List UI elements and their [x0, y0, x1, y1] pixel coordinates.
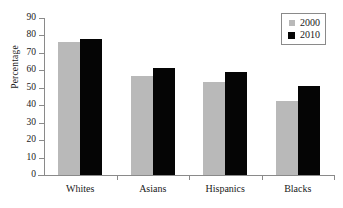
bar-whites-2000 — [58, 42, 80, 175]
y-axis-tick-label: 0 — [31, 168, 36, 181]
bar-blacks-2010 — [298, 86, 320, 175]
y-axis-tick: 90 — [39, 18, 44, 19]
bar-blacks-2000 — [276, 101, 298, 175]
legend-item-2000: 2000 — [286, 17, 320, 29]
y-axis-tick: 20 — [39, 140, 44, 141]
y-axis-tick: 30 — [39, 123, 44, 124]
y-axis-tick: 10 — [39, 158, 44, 159]
gray-square-icon — [286, 20, 297, 26]
bar-asians-2010 — [153, 68, 175, 175]
y-axis-title: Percentage — [10, 22, 20, 112]
bar-hispanics-2000 — [203, 82, 225, 175]
y-axis-tick: 40 — [39, 105, 44, 106]
legend-label-2010: 2010 — [300, 29, 320, 41]
y-axis-tick-label: 60 — [27, 63, 37, 76]
y-axis-tick-label: 90 — [27, 11, 37, 24]
x-axis-label-blacks: Blacks — [258, 183, 338, 194]
chart-legend: 2000 2010 — [281, 13, 326, 45]
y-axis-tick: 70 — [39, 53, 44, 54]
x-axis-line — [38, 175, 334, 176]
y-axis-tick: 60 — [39, 70, 44, 71]
x-axis-tick — [189, 175, 190, 180]
legend-label-2000: 2000 — [300, 17, 320, 29]
y-axis-line — [44, 18, 45, 175]
x-axis-tick — [262, 175, 263, 180]
x-axis-label-asians: Asians — [113, 183, 193, 194]
y-axis-tick-label: 80 — [27, 28, 37, 41]
bar-whites-2010 — [80, 39, 102, 175]
x-axis-tick — [334, 175, 335, 180]
y-axis-tick-label: 40 — [27, 98, 37, 111]
legend-item-2010: 2010 — [286, 29, 320, 41]
y-axis-tick-label: 20 — [27, 133, 37, 146]
y-axis-tick: 0 — [39, 175, 44, 176]
bar-asians-2000 — [131, 76, 153, 175]
y-axis-tick-label: 30 — [27, 116, 37, 129]
x-axis-tick — [117, 175, 118, 180]
y-axis-tick-label: 70 — [27, 46, 37, 59]
y-axis-tick: 80 — [39, 35, 44, 36]
y-axis-tick: 50 — [39, 88, 44, 89]
bar-hispanics-2010 — [225, 72, 247, 175]
x-axis-label-whites: Whites — [40, 183, 120, 194]
x-axis-label-hispanics: Hispanics — [185, 183, 265, 194]
y-axis-tick-label: 50 — [27, 81, 37, 94]
bar-chart: Percentage 0102030405060708090 WhitesAsi… — [0, 0, 343, 208]
black-square-icon — [286, 32, 297, 39]
y-axis-tick-label: 10 — [27, 151, 37, 164]
